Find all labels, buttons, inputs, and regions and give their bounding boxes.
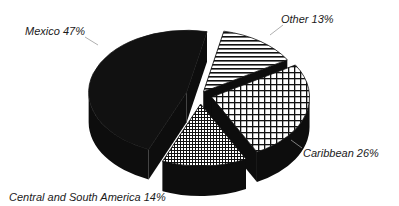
label-caribbean: Caribbean 26% — [303, 147, 379, 159]
label-central-south-america: Central and South America 14% — [9, 191, 166, 203]
label-other: Other 13% — [281, 13, 334, 25]
label-mexico: Mexico 47% — [25, 25, 85, 37]
leader-line-other — [270, 25, 283, 35]
leader-line-mexico — [85, 37, 98, 45]
pie-slices — [89, 30, 310, 196]
